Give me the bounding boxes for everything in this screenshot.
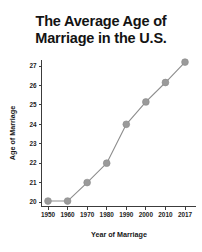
chart-container: The Average Age of Marriage in the U.S. …: [0, 0, 202, 252]
x-axis-title: Year of Marriage: [91, 230, 147, 239]
y-tick-label: 25: [29, 101, 37, 108]
y-tick-label: 20: [29, 198, 37, 205]
y-tick-label: 26: [29, 82, 37, 89]
y-axis-ticks: 2021222324252627: [29, 62, 41, 205]
x-tick-label: 1950: [41, 211, 56, 218]
data-point-marker: [182, 59, 189, 66]
data-point-marker: [84, 179, 91, 186]
data-point-marker: [123, 121, 130, 128]
y-tick-label: 22: [29, 159, 37, 166]
x-tick-label: 1990: [119, 211, 134, 218]
data-point-marker: [103, 160, 110, 167]
data-series-markers: [45, 59, 189, 205]
data-point-marker: [162, 79, 169, 86]
x-tick-label: 1980: [100, 211, 115, 218]
y-tick-label: 27: [29, 62, 37, 69]
data-point-marker: [45, 198, 52, 205]
x-axis-ticks: 19501960197019801990200020102017: [41, 207, 193, 219]
data-point-marker: [64, 198, 71, 205]
line-chart-plot: 2021222324252627 19501960197019801990200…: [0, 0, 202, 252]
data-point-marker: [142, 99, 149, 106]
x-tick-label: 1970: [80, 211, 95, 218]
x-tick-label: 1960: [60, 211, 75, 218]
x-tick-label: 2017: [178, 211, 193, 218]
y-tick-label: 23: [29, 140, 37, 147]
y-tick-label: 21: [29, 179, 37, 186]
y-axis-title: Age of Marriage: [8, 106, 17, 160]
x-tick-label: 2000: [139, 211, 154, 218]
x-tick-label: 2010: [158, 211, 173, 218]
y-tick-label: 24: [29, 121, 37, 128]
